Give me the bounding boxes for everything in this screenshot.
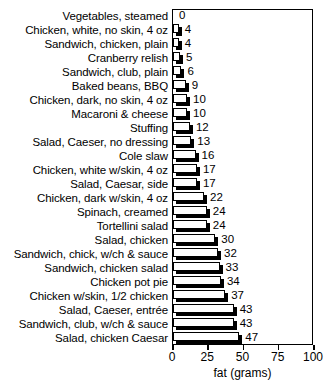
category-label-column: Vegetables, steamedChicken, white, no sk… <box>0 9 170 345</box>
bar-value-label: 24 <box>213 218 226 232</box>
bar-row: 37 <box>173 289 314 303</box>
bar-row: 10 <box>173 93 314 107</box>
bar-value-label: 37 <box>231 288 244 302</box>
bar-row: 10 <box>173 107 314 121</box>
bar-value-label: 16 <box>202 148 215 162</box>
bar-row: 5 <box>173 51 314 65</box>
category-label: Salad, Caeser, no dressing <box>0 135 170 149</box>
bar-row: 32 <box>173 247 314 261</box>
bar <box>173 52 180 61</box>
bar-row: 17 <box>173 177 314 191</box>
bar-row: 12 <box>173 121 314 135</box>
bar <box>173 24 179 33</box>
x-axis-tick-label: 50 <box>236 350 249 365</box>
category-label: Sandwich, chicken, plain <box>0 37 170 51</box>
bar-value-label: 6 <box>187 64 193 78</box>
bar-value-label: 22 <box>210 190 223 204</box>
bar-row: 33 <box>173 261 314 275</box>
bars-layer: 0445691010121316171722242430323334374343… <box>173 9 314 345</box>
bar <box>173 332 239 341</box>
bar-row: 24 <box>173 219 314 233</box>
bar-value-label: 33 <box>226 260 239 274</box>
category-label: Baked beans, BBQ <box>0 79 170 93</box>
bar-value-label: 12 <box>196 120 209 134</box>
bar <box>173 80 186 89</box>
bar-value-label: 34 <box>227 274 240 288</box>
x-axis-tick-label: 0 <box>169 350 176 365</box>
bar <box>173 234 215 243</box>
bar <box>173 164 197 173</box>
x-axis-tick-label: 25 <box>201 350 214 365</box>
bar-value-label: 0 <box>179 8 185 22</box>
bar-value-label: 5 <box>186 50 192 64</box>
bar <box>173 206 207 215</box>
bar-value-label: 9 <box>192 78 198 92</box>
bar <box>173 38 179 47</box>
category-label: Chicken, dark w/skin, 4 oz <box>0 191 170 205</box>
bar-chart: Vegetables, steamedChicken, white, no sk… <box>0 0 331 383</box>
bar <box>173 290 225 299</box>
bar-value-label: 4 <box>185 36 191 50</box>
bar-value-label: 4 <box>185 22 191 36</box>
bar <box>173 248 218 257</box>
bar-value-label: 47 <box>245 330 258 344</box>
bar-value-label: 32 <box>224 246 237 260</box>
category-label: Sandwich, chicken salad <box>0 261 170 275</box>
category-label: Tortellini salad <box>0 219 170 233</box>
bar-value-label: 24 <box>213 204 226 218</box>
bar-value-label: 10 <box>193 106 206 120</box>
bar-value-label: 17 <box>203 162 216 176</box>
bar <box>173 122 190 131</box>
bar-row: 30 <box>173 233 314 247</box>
bar <box>173 192 204 201</box>
bar-row: 4 <box>173 37 314 51</box>
category-label: Chicken, dark, no skin, 4 oz <box>0 93 170 107</box>
category-label: Chicken, white w/skin, 4 oz <box>0 163 170 177</box>
bar-value-label: 17 <box>203 176 216 190</box>
bar-row: 24 <box>173 205 314 219</box>
bar-row: 9 <box>173 79 314 93</box>
category-label: Chicken pot pie <box>0 275 170 289</box>
bar <box>173 66 181 75</box>
bar <box>173 178 197 187</box>
bar-row: 4 <box>173 23 314 37</box>
bar-row: 0 <box>173 9 314 23</box>
bar-value-label: 10 <box>193 92 206 106</box>
category-label: Vegetables, steamed <box>0 9 170 23</box>
bar-value-label: 30 <box>221 232 234 246</box>
bar-row: 17 <box>173 163 314 177</box>
category-label: Spinach, creamed <box>0 205 170 219</box>
category-label: Stuffing <box>0 121 170 135</box>
category-label: Macaroni & cheese <box>0 107 170 121</box>
bar <box>173 262 220 271</box>
category-label: Cole slaw <box>0 149 170 163</box>
bar-row: 43 <box>173 317 314 331</box>
category-label: Sandwich, club, w/ch & sauce <box>0 317 170 331</box>
bar-value-label: 43 <box>240 316 253 330</box>
bar <box>173 220 207 229</box>
bar <box>173 304 234 313</box>
bar <box>173 136 191 145</box>
bar-row: 13 <box>173 135 314 149</box>
bar-row: 47 <box>173 331 314 345</box>
category-label: Sandwich, chick, w/ch & sauce <box>0 247 170 261</box>
bar <box>173 276 221 285</box>
bar <box>173 150 196 159</box>
category-label: Chicken, white, no skin, 4 oz <box>0 23 170 37</box>
x-axis-title: fat (grams) <box>172 366 313 380</box>
bar <box>173 318 234 327</box>
bar-row: 34 <box>173 275 314 289</box>
bar-row: 6 <box>173 65 314 79</box>
bar-row: 22 <box>173 191 314 205</box>
bar-row: 16 <box>173 149 314 163</box>
category-label: Cranberry relish <box>0 51 170 65</box>
category-label: Salad, chicken Caesar <box>0 331 170 345</box>
category-label: Sandwich, club, plain <box>0 65 170 79</box>
bar <box>173 94 187 103</box>
category-label: Salad, chicken <box>0 233 170 247</box>
category-label: Salad, Caesar, side <box>0 177 170 191</box>
x-axis-tick-label: 100 <box>303 350 323 365</box>
bar-value-label: 13 <box>197 134 210 148</box>
x-axis-tick-labels: 0255075100 <box>172 350 313 365</box>
category-label: Chicken w/skin, 1/2 chicken <box>0 289 170 303</box>
